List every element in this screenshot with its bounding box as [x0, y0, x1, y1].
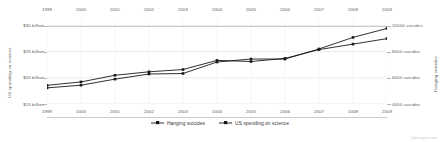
data-point-marker	[80, 81, 83, 84]
data-point-marker	[250, 60, 253, 63]
bottom-axis-rule	[47, 104, 387, 108]
right-axis-title: Hanging suicides	[433, 56, 438, 92]
y-tick-mark-right	[387, 26, 391, 27]
x-tick-label-top: 2005	[236, 7, 266, 12]
x-tick-label-top: 2008	[338, 7, 368, 12]
legend-label: US spending on science	[235, 121, 289, 126]
y-tick-mark-right	[387, 78, 391, 79]
data-point-marker	[216, 61, 219, 64]
y-tick-label-left: $20 billion	[12, 75, 44, 80]
data-point-marker	[47, 87, 48, 90]
x-tick-label-top: 2001	[100, 7, 130, 12]
legend-entry-1[interactable]: Hanging suicides	[151, 120, 205, 126]
y-tick-label-left: $25 billion	[12, 49, 44, 54]
y-tick-mark-right	[387, 104, 391, 105]
data-point-marker	[352, 43, 355, 46]
plot-area	[47, 19, 387, 104]
data-point-marker	[148, 73, 151, 76]
x-tick-label-top: 2006	[270, 7, 300, 12]
x-tick-label-top: 2003	[168, 7, 198, 12]
watermark: tylervigen.com	[411, 136, 437, 140]
data-point-marker	[182, 72, 185, 75]
data-point-marker	[80, 84, 83, 87]
y-tick-label-right: 4000 suicides	[392, 102, 420, 107]
y-tick-label-right: 6000 suicides	[392, 75, 420, 80]
left-axis-title: US spending on science	[7, 47, 12, 98]
spurious-correlation-chart: US spending on science Hanging suicides …	[0, 0, 440, 142]
y-tick-mark-right	[387, 52, 391, 53]
data-point-marker	[318, 48, 321, 51]
legend-marker-icon	[151, 120, 164, 126]
y-tick-label-left: $30 billion	[12, 23, 44, 28]
data-point-marker	[114, 74, 117, 77]
legend-marker-icon	[219, 120, 232, 126]
y-tick-label-right: 10000 suicides	[392, 23, 423, 28]
data-point-marker	[114, 78, 117, 81]
data-point-marker	[386, 37, 387, 40]
data-point-marker	[352, 36, 355, 39]
x-tick-label-top: 2004	[202, 7, 232, 12]
y-tick-label-left: $15 billion	[12, 102, 44, 107]
y-tick-label-right: 8000 suicides	[392, 49, 420, 54]
legend-entry-2[interactable]: US spending on science	[219, 120, 289, 126]
legend-label: Hanging suicides	[167, 121, 205, 126]
top-axis-rule	[47, 16, 387, 20]
chart-legend: Hanging suicidesUS spending on science	[0, 120, 440, 126]
x-tick-label-top: 2000	[66, 7, 96, 12]
data-point-marker	[47, 84, 48, 87]
x-tick-label-top: 1999	[32, 7, 62, 12]
data-point-marker	[284, 58, 287, 61]
data-point-marker	[250, 58, 253, 61]
x-tick-label-top: 2007	[304, 7, 334, 12]
x-tick-label-top: 2009	[372, 7, 402, 12]
data-point-marker	[182, 68, 185, 71]
x-tick-label-top: 2002	[134, 7, 164, 12]
